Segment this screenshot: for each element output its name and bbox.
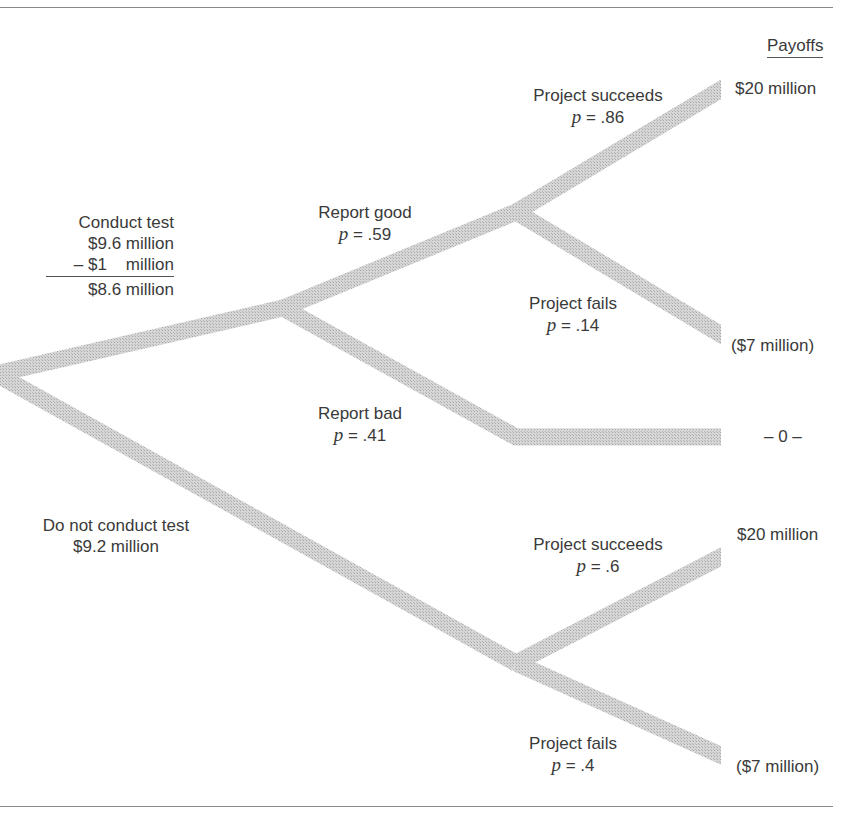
notest-fails-label: Project fails p = .4 [508,733,638,776]
notest-succeeds-label: Project succeeds p = .6 [508,534,688,577]
notest-fails-prob: p = .4 [508,754,638,776]
good-succeeds-prob: p = .86 [508,106,688,128]
payoff-report-bad: – 0 – [764,427,802,447]
payoff-good-succeeds: $20 million [735,79,816,99]
no-test-label: Do not conduct test $9.2 million [16,515,216,557]
notest-succeeds-prob: p = .6 [508,555,688,577]
report-good-prob: p = .59 [300,223,430,245]
conduct-test-cost: – $1 million [46,254,174,277]
payoff-notest-fails: ($7 million) [736,757,819,777]
good-fails-prob: p = .14 [508,314,638,336]
good-fails-label: Project fails p = .14 [508,293,638,336]
report-bad-label: Report bad p = .41 [300,403,420,446]
payoff-notest-succeeds: $20 million [737,525,818,545]
decision-tree-branches [0,0,853,820]
conduct-test-ev: $9.6 million [20,233,174,254]
branch-conduct-test [0,308,283,374]
good-succeeds-label: Project succeeds p = .86 [508,85,688,128]
no-test-title: Do not conduct test [16,515,216,536]
payoffs-header: Payoffs [767,36,823,58]
conduct-test-title: Conduct test [20,212,174,233]
no-test-ev: $9.2 million [16,536,216,557]
payoff-good-fails: ($7 million) [731,336,814,356]
report-good-label: Report good p = .59 [300,202,430,245]
conduct-test-label: Conduct test $9.6 million – $1 million $… [20,212,174,300]
report-bad-prob: p = .41 [300,424,420,446]
conduct-test-net: $8.6 million [20,279,174,300]
